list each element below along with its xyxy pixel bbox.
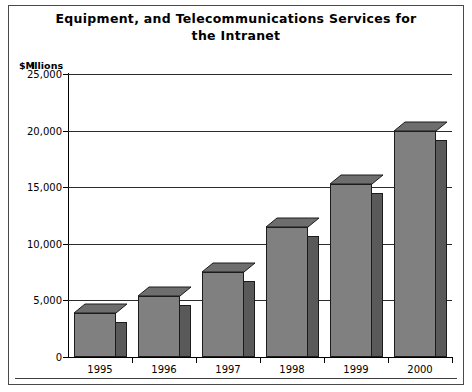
- x-axis-tick-label: 1996: [151, 364, 176, 375]
- bar: [394, 131, 436, 357]
- x-axis-tick-mark: [324, 357, 325, 363]
- x-axis-baseline-rule: [15, 378, 457, 379]
- x-axis-tick-mark: [388, 357, 389, 363]
- bar: [138, 296, 180, 357]
- bar-front-face: [202, 272, 244, 357]
- bar-side-face: [116, 322, 127, 357]
- y-axis-tick-mark: [63, 244, 68, 245]
- x-axis-tick-label: 2000: [407, 364, 432, 375]
- y-axis-tick-mark: [63, 187, 68, 188]
- bar-top-face: [138, 287, 191, 296]
- y-axis-tick-label: 10,000: [27, 238, 62, 249]
- x-axis-tick-mark: [452, 357, 453, 363]
- x-axis-tick-label: 1998: [279, 364, 304, 375]
- plot-area: [68, 74, 452, 357]
- bar-front-face: [266, 227, 308, 357]
- y-axis-tick-label: 5,000: [33, 295, 62, 306]
- x-axis-tick-mark: [132, 357, 133, 363]
- x-axis-tick-label: 1997: [215, 364, 240, 375]
- x-axis-tick-mark: [260, 357, 261, 363]
- chart-title: Equipment, and Telecommunications Servic…: [18, 10, 454, 44]
- bar-top-face: [394, 122, 447, 131]
- bar: [202, 272, 244, 357]
- bar: [74, 313, 116, 357]
- x-axis-tick-label: 1999: [343, 364, 368, 375]
- bar-side-face: [308, 236, 319, 357]
- bar-side-face: [244, 281, 255, 357]
- gridline: [68, 74, 452, 75]
- chart-figure: Equipment, and Telecommunications Servic…: [0, 0, 472, 392]
- bar-front-face: [330, 184, 372, 357]
- x-axis-tick-label: 1995: [87, 364, 112, 375]
- bar-side-face: [180, 305, 191, 357]
- bar-top-face: [330, 175, 383, 184]
- y-axis-tick-mark: [63, 300, 68, 301]
- x-axis-tick-mark: [196, 357, 197, 363]
- bar-top-face: [266, 218, 319, 227]
- chart-title-line-2: the Intranet: [18, 27, 454, 44]
- y-axis-tick-label: 20,000: [27, 125, 62, 136]
- bar-front-face: [74, 313, 116, 357]
- bar: [266, 227, 308, 357]
- chart-title-line-1: Equipment, and Telecommunications Servic…: [18, 10, 454, 27]
- y-axis-tick-mark: [63, 74, 68, 75]
- bar-top-face: [74, 304, 127, 313]
- bar-top-face: [202, 263, 255, 272]
- bar-front-face: [138, 296, 180, 357]
- y-axis-tick-mark: [63, 357, 68, 358]
- y-axis-tick-label: 0: [56, 352, 62, 363]
- y-axis-tick-label: 15,000: [27, 182, 62, 193]
- bar: [330, 184, 372, 357]
- y-axis-tick-label: 25,000: [27, 69, 62, 80]
- bar-side-face: [372, 193, 383, 357]
- bar-side-face: [436, 140, 447, 357]
- y-axis-tick-mark: [63, 131, 68, 132]
- bar-front-face: [394, 131, 436, 357]
